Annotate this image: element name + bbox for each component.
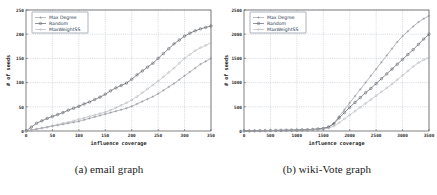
chart-wiki-vote-graph: 0500100015002000250030003500050010001500… — [218, 0, 436, 162]
x-axis-ticks: 050100150200250300350 — [25, 129, 216, 138]
x-tick-label: 0 — [243, 133, 246, 138]
x-tick-label: 500 — [266, 133, 274, 138]
series-line — [26, 58, 211, 131]
y-tick-label: 2000 — [231, 32, 242, 37]
x-tick-label: 1500 — [318, 133, 329, 138]
x-tick-label: 250 — [154, 133, 162, 138]
legend-label: Random — [267, 21, 287, 26]
chart-legend: Max DegreeRandomMaxWeightSS — [250, 12, 306, 33]
x-tick-label: 100 — [75, 133, 83, 138]
data-point-plus — [146, 98, 149, 101]
series-max-degree — [25, 57, 213, 132]
y-axis-label: # of seeds — [5, 55, 11, 86]
x-tick-label: 200 — [128, 133, 136, 138]
x-tick-label: 3000 — [397, 133, 408, 138]
y-tick-label: 1000 — [231, 80, 242, 85]
data-point-plus — [115, 110, 118, 113]
legend-label: Max Degree — [49, 15, 77, 20]
figure-container: 050100150200250300350050100150200250infl… — [0, 0, 437, 195]
x-tick-label: 150 — [101, 133, 109, 138]
caption-panel-b: (b) wiki-Vote graph — [218, 163, 436, 175]
x-tick-label: 300 — [181, 133, 189, 138]
x-axis-label: influence coverage — [90, 140, 146, 147]
data-point-plus — [210, 57, 213, 60]
chart-email-graph: 050100150200250300350050100150200250infl… — [0, 0, 218, 162]
panel-email-graph: 050100150200250300350050100150200250infl… — [0, 0, 218, 195]
y-tick-label: 100 — [16, 80, 24, 85]
series-line — [26, 26, 211, 131]
y-tick-label: 200 — [16, 32, 24, 37]
data-point-plus — [204, 60, 207, 63]
chart-svg-wiki-vote: 0500100015002000250030003500050010001500… — [218, 0, 436, 162]
data-point-plus — [152, 95, 155, 98]
x-tick-label: 1000 — [292, 133, 303, 138]
y-tick-label: 500 — [234, 105, 242, 110]
legend-label: MaxWeightSS — [49, 27, 80, 32]
series-random — [25, 25, 213, 133]
panel-wiki-vote-graph: 0500100015002000250030003500050010001500… — [218, 0, 436, 195]
legend-label: MaxWeightSS — [267, 27, 298, 32]
legend-label: Max Degree — [267, 15, 295, 20]
data-point-plus — [120, 108, 123, 111]
caption-panel-a: (a) email graph — [0, 163, 218, 175]
chart-legend: Max DegreeRandomMaxWeightSS — [32, 12, 88, 33]
y-tick-label: 1500 — [231, 56, 242, 61]
y-tick-label: 250 — [16, 8, 24, 13]
x-tick-label: 0 — [25, 133, 28, 138]
x-tick-label: 2500 — [371, 133, 382, 138]
data-point-plus — [130, 105, 133, 108]
data-point-plus — [141, 100, 144, 103]
legend-label: Random — [49, 21, 69, 26]
x-tick-label: 350 — [207, 133, 215, 138]
x-tick-label: 2000 — [344, 133, 355, 138]
x-tick-label: 50 — [50, 133, 56, 138]
y-tick-label: 2500 — [231, 8, 242, 13]
x-tick-label: 3500 — [424, 133, 435, 138]
chart-svg-email: 050100150200250300350050100150200250infl… — [0, 0, 218, 162]
y-tick-label: 0 — [21, 129, 24, 134]
data-point-plus — [428, 15, 431, 18]
y-tick-label: 50 — [19, 105, 25, 110]
y-tick-label: 0 — [239, 129, 242, 134]
y-axis-label: # of seeds — [223, 55, 229, 86]
data-point-plus — [125, 107, 128, 110]
data-point-plus — [136, 103, 139, 106]
y-tick-label: 150 — [16, 56, 24, 61]
x-axis-label: influence coverage — [308, 140, 364, 147]
